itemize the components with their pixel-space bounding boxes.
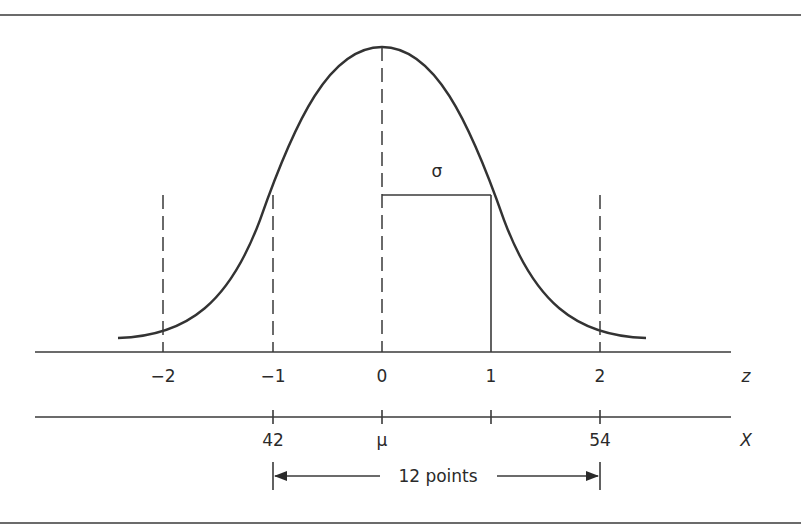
span-label: 12 points bbox=[398, 466, 477, 486]
x-tick-label: 42 bbox=[262, 430, 284, 450]
x-tick-label: μ bbox=[377, 430, 388, 450]
z-tick-label: 0 bbox=[377, 366, 388, 386]
z-tick-label: 1 bbox=[486, 366, 497, 386]
z-tick-label: −1 bbox=[260, 366, 285, 386]
z-tick-label: −2 bbox=[150, 366, 175, 386]
x-tick-label: 54 bbox=[589, 430, 611, 450]
z-tick-label: 2 bbox=[595, 366, 606, 386]
z-axis-label: z bbox=[741, 366, 752, 386]
arrow-right-icon bbox=[586, 471, 599, 481]
sigma-label: σ bbox=[432, 161, 443, 181]
x-axis-label: X bbox=[739, 430, 752, 450]
normal-distribution-diagram: σ −2 −1 0 1 2 z 42 μ 54 X 12 points bbox=[0, 0, 801, 525]
arrow-left-icon bbox=[274, 471, 287, 481]
